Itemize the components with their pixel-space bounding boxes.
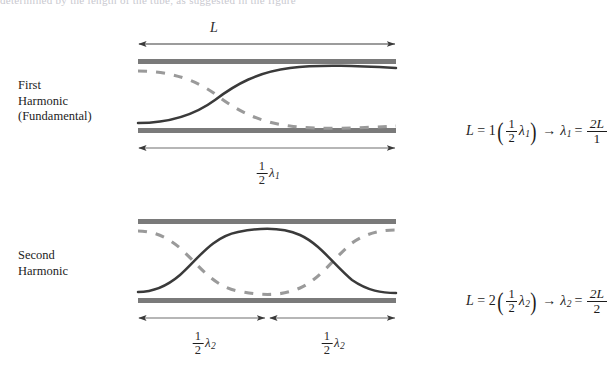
- eq1-fraction-one-half: 1 2: [506, 118, 517, 145]
- eq1-multiplier: 1: [489, 123, 496, 139]
- eq1-result-subscript: 1: [567, 129, 572, 139]
- eq2-implies-arrow: →: [542, 293, 556, 309]
- eq1-implies-arrow: →: [542, 123, 556, 139]
- eq2-fraction-one-half: 1 2: [506, 288, 517, 315]
- lambda-symbol: λ: [269, 165, 275, 181]
- tube1-solid-wave: [138, 66, 396, 123]
- lambda-subscript: 1: [275, 171, 280, 181]
- tube1-wall-bottom: [138, 128, 396, 133]
- tube1-dashed-wave: [138, 71, 396, 128]
- tube2-wall-top: [138, 219, 396, 224]
- dimension-label-half-lambda2-right: 1 2 λ 2: [320, 330, 345, 357]
- eq1-equals: =: [477, 123, 485, 139]
- eq1-result-lambda: λ: [560, 123, 566, 139]
- fraction-one-half: 1 2: [321, 330, 332, 357]
- lambda-symbol: λ: [205, 335, 211, 351]
- eq2-result-equals: =: [574, 293, 582, 309]
- eq1-result-equals: =: [574, 123, 582, 139]
- eq2-result-lambda: λ: [560, 293, 566, 309]
- dimension-label-L: L: [210, 20, 218, 36]
- dimension-label-half-lambda1: 1 2 λ 1: [255, 160, 280, 187]
- equation-second-harmonic: L = 2 ( 1 2 λ 2 ) → λ 2 = 2L 2: [466, 287, 608, 316]
- equation-first-harmonic: L = 1 ( 1 2 λ 1 ) → λ 1 = 2L 1: [466, 117, 608, 146]
- lambda-subscript: 2: [340, 341, 345, 351]
- eq1-L: L: [466, 123, 474, 139]
- eq2-lambda: λ: [519, 293, 525, 309]
- lambda-subscript: 2: [211, 341, 216, 351]
- tube1-wall-top: [138, 59, 396, 64]
- tube2-wall-bottom: [138, 298, 396, 303]
- fraction-one-half: 1 2: [256, 160, 267, 187]
- waveform-diagram: [0, 0, 616, 378]
- eq2-result-fraction: 2L 2: [587, 287, 606, 316]
- eq2-equals: =: [477, 293, 485, 309]
- eq2-multiplier: 2: [489, 293, 496, 309]
- dimension-label-half-lambda2-left: 1 2 λ 2: [191, 330, 216, 357]
- standing-wave-figure: determined by the length of the tube, as…: [0, 0, 616, 378]
- eq2-result-subscript: 2: [567, 299, 572, 309]
- fraction-one-half: 1 2: [192, 330, 203, 357]
- eq2-L: L: [466, 293, 474, 309]
- eq1-result-fraction: 2L 1: [587, 117, 606, 146]
- lambda-symbol: λ: [334, 335, 340, 351]
- eq1-lambda: λ: [519, 123, 525, 139]
